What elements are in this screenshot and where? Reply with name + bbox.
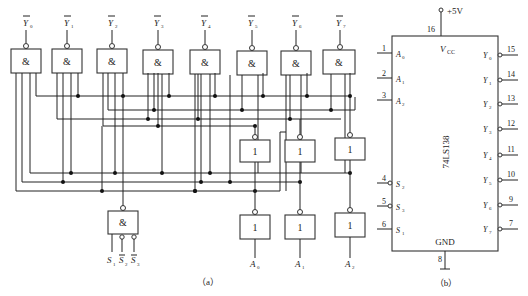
svg-text:Y: Y xyxy=(292,18,298,28)
input-label-a0: A0 xyxy=(249,259,260,270)
svg-text:1: 1 xyxy=(382,44,386,53)
svg-text:S: S xyxy=(396,226,400,235)
svg-text:1: 1 xyxy=(113,262,116,267)
svg-text:S: S xyxy=(107,255,112,265)
svg-text:0: 0 xyxy=(257,265,260,270)
output-label-y4: Y4 xyxy=(201,16,211,29)
power-label: +5V xyxy=(447,6,464,16)
svg-text:3: 3 xyxy=(382,91,386,100)
not-gate-row1-a0: 1 xyxy=(240,135,270,163)
svg-text:Y: Y xyxy=(154,18,160,28)
input-label-a2: A2 xyxy=(344,259,355,270)
not-gate-row2-a0: 1 xyxy=(240,210,270,259)
svg-text:A: A xyxy=(344,259,351,269)
decoder-diagram: Y0 Y1 Y2 Y3 Y4 Y5 Y6 Y7 & & & & & & & & xyxy=(0,0,528,296)
and-gate-4: & xyxy=(190,50,220,74)
svg-text:0: 0 xyxy=(30,24,33,29)
and-gate-0: & xyxy=(11,49,41,73)
and-gate-3: & xyxy=(143,50,173,74)
svg-text:S: S xyxy=(396,203,400,212)
svg-text:5: 5 xyxy=(382,197,386,206)
svg-text:2: 2 xyxy=(352,265,355,270)
svg-text:1: 1 xyxy=(302,265,305,270)
gnd-pin-number: 8 xyxy=(438,255,442,264)
svg-text:1: 1 xyxy=(71,24,74,29)
svg-text:5: 5 xyxy=(255,24,258,29)
svg-text:4: 4 xyxy=(382,174,386,183)
svg-text:&: & xyxy=(154,57,162,68)
svg-text:14: 14 xyxy=(507,70,515,79)
svg-text:S: S xyxy=(119,255,124,265)
svg-text:A: A xyxy=(395,97,401,106)
svg-text:1: 1 xyxy=(298,222,303,233)
svg-text:Y: Y xyxy=(23,18,29,28)
figure-b-caption: （b） xyxy=(435,278,458,288)
svg-text:&: & xyxy=(108,56,116,67)
svg-text:S: S xyxy=(396,180,400,189)
enable-labels: S1 S2 S3 xyxy=(107,255,140,267)
not-gate-row2-a2: 1 xyxy=(335,208,365,259)
power-terminal-icon xyxy=(439,8,443,12)
svg-text:2: 2 xyxy=(115,24,118,29)
and-gate-6: & xyxy=(281,51,311,75)
svg-text:&: & xyxy=(248,58,256,69)
and-gate-1: & xyxy=(52,49,82,73)
gnd-label: GND xyxy=(435,237,455,247)
svg-text:&: & xyxy=(63,56,71,67)
not-gate-row1-a1: 1 xyxy=(285,135,315,163)
svg-text:1: 1 xyxy=(253,146,258,157)
svg-text:Y: Y xyxy=(201,18,207,28)
svg-text:11: 11 xyxy=(507,145,515,154)
svg-text:6: 6 xyxy=(382,220,386,229)
svg-text:6: 6 xyxy=(299,24,302,29)
figure-b-chip-74ls138: +5V 16 VCC 74LS138 GND 8 1A0 2A1 3A2 4S2… xyxy=(377,6,518,288)
output-label-y6: Y6 xyxy=(292,16,302,29)
svg-text:1: 1 xyxy=(298,146,303,157)
svg-text:2: 2 xyxy=(125,262,128,267)
svg-text:&: & xyxy=(292,58,300,69)
svg-text:2: 2 xyxy=(382,69,386,78)
svg-text:1: 1 xyxy=(348,220,353,231)
output-label-y3: Y3 xyxy=(154,16,164,29)
output-labels: Y0 Y1 Y2 Y3 Y4 Y5 Y6 Y7 xyxy=(23,16,346,29)
svg-text:9: 9 xyxy=(509,195,513,204)
svg-text:1: 1 xyxy=(348,144,353,155)
and-gate-2: & xyxy=(97,49,127,73)
svg-text:Y: Y xyxy=(108,18,114,28)
output-label-y0: Y0 xyxy=(23,16,33,29)
vcc-pin-number: 16 xyxy=(427,25,435,34)
svg-text:7: 7 xyxy=(343,24,346,29)
output-label-y5: Y5 xyxy=(248,16,258,29)
svg-text:CC: CC xyxy=(447,49,455,55)
svg-text:10: 10 xyxy=(507,170,515,179)
not-gate-row2-a1: 1 xyxy=(285,210,315,259)
svg-text:3: 3 xyxy=(137,262,140,267)
svg-text:13: 13 xyxy=(507,94,515,103)
output-label-y1: Y1 xyxy=(64,16,74,29)
svg-text:&: & xyxy=(335,57,343,68)
svg-text:Y: Y xyxy=(248,18,254,28)
svg-text:A: A xyxy=(395,75,401,84)
svg-text:&: & xyxy=(22,56,30,67)
svg-text:4: 4 xyxy=(208,24,211,29)
output-stubs xyxy=(24,30,343,51)
input-label-a1: A1 xyxy=(294,259,305,270)
svg-text:Y: Y xyxy=(336,18,342,28)
svg-text:A: A xyxy=(249,259,256,269)
svg-text:1: 1 xyxy=(253,222,258,233)
output-label-y2: Y2 xyxy=(108,16,118,29)
svg-text:&: & xyxy=(201,57,209,68)
figure-a-caption: （a） xyxy=(197,277,219,287)
output-label-y7: Y7 xyxy=(336,16,346,29)
chip-name: 74LS138 xyxy=(441,135,451,169)
svg-text:&: & xyxy=(119,217,127,228)
svg-text:Y: Y xyxy=(64,18,70,28)
svg-text:12: 12 xyxy=(507,119,515,128)
and-gate-7: & xyxy=(323,50,355,74)
enable-and-gate: & xyxy=(108,206,138,253)
svg-text:15: 15 xyxy=(507,45,515,54)
svg-text:7: 7 xyxy=(509,219,513,228)
figure-a-logic-circuit: Y0 Y1 Y2 Y3 Y4 Y5 Y6 Y7 & & & & & & & & xyxy=(11,16,365,287)
and-gate-5: & xyxy=(237,51,267,75)
not-gate-row1-a2: 1 xyxy=(335,133,365,161)
